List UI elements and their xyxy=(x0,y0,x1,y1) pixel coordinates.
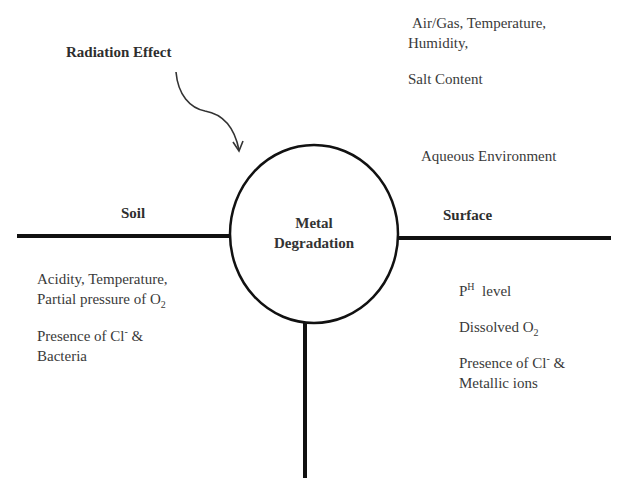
center-line1: Metal xyxy=(254,213,374,233)
radiation-effect-label: Radiation Effect xyxy=(66,43,171,62)
text: & xyxy=(550,355,565,371)
soil-factor-2-line1: Presence of Cl- & xyxy=(37,327,143,346)
soil-label: Soil xyxy=(121,204,145,223)
aqueous-environment-label: Aqueous Environment xyxy=(421,147,556,166)
text: Presence of Cl xyxy=(37,328,124,344)
text: & xyxy=(128,328,143,344)
surface-factor-dissolved-o2: Dissolved O2 xyxy=(459,318,539,337)
subscript: 2 xyxy=(161,299,166,310)
soil-factor-1-line2: Partial pressure of O2 xyxy=(37,290,166,309)
surface-factor-ph: PH level xyxy=(459,282,511,301)
surface-factor-3-line2: Metallic ions xyxy=(459,374,538,393)
air-gas-line2: Humidity, xyxy=(408,34,468,53)
center-title: Metal Degradation xyxy=(254,213,374,253)
salt-content-label: Salt Content xyxy=(408,70,483,89)
text: Partial pressure of O xyxy=(37,291,161,307)
text: Presence of Cl xyxy=(459,355,546,371)
center-line2: Degradation xyxy=(254,233,374,253)
text: level xyxy=(475,283,512,299)
surface-label: Surface xyxy=(443,206,492,225)
surface-factor-3-line1: Presence of Cl- & xyxy=(459,354,565,373)
soil-factor-2-line2: Bacteria xyxy=(37,347,87,366)
radiation-arrow-icon xyxy=(176,72,239,150)
subscript: 2 xyxy=(534,327,539,338)
superscript: H xyxy=(467,281,474,292)
soil-factor-1-line1: Acidity, Temperature, xyxy=(37,270,168,289)
air-gas-line1: Air/Gas, Temperature, xyxy=(412,14,546,33)
text: Dissolved O xyxy=(459,319,534,335)
